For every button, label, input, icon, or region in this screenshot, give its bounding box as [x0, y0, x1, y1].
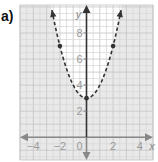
data-point	[58, 44, 63, 49]
x-axis-label: x	[148, 140, 155, 152]
y-tick-label: 6	[76, 53, 82, 65]
y-tick-label: 4	[76, 79, 82, 91]
chart: −4−20242468xy	[0, 0, 158, 162]
y-tick-label: 2	[76, 105, 82, 117]
data-point	[111, 44, 116, 49]
data-point	[84, 96, 89, 101]
y-tick-label: 8	[76, 27, 82, 39]
x-tick-label: −4	[27, 140, 40, 152]
x-tick-label: 2	[110, 140, 116, 152]
x-tick-label: 4	[137, 140, 143, 152]
x-tick-label: 0	[76, 140, 82, 152]
x-tick-label: −2	[54, 140, 67, 152]
